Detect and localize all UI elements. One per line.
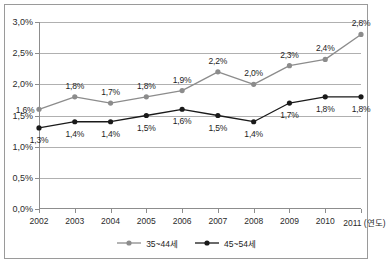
data-point: [36, 125, 41, 130]
data-point: [108, 100, 113, 105]
x-axis-label: 2003: [65, 216, 84, 226]
data-point: [215, 113, 220, 118]
x-axis-tick: [111, 209, 112, 213]
data-point: [180, 107, 185, 112]
y-axis-label: 3,0%: [12, 17, 33, 27]
x-axis-label: 2005: [137, 216, 156, 226]
x-axis-tick: [218, 209, 219, 213]
data-label: 1,4%: [244, 129, 263, 139]
data-point: [108, 119, 113, 124]
data-label: 2,2%: [209, 56, 228, 66]
data-point: [323, 94, 328, 99]
x-axis-label: 2006: [173, 216, 192, 226]
data-label: 1,7%: [101, 87, 120, 97]
y-axis-label: 2,5%: [12, 48, 33, 58]
x-axis-tick: [361, 209, 362, 213]
data-label: 1,8%: [65, 81, 84, 91]
data-label: 1,4%: [65, 129, 84, 139]
data-point: [72, 119, 77, 124]
x-axis-label: 2010: [316, 216, 335, 226]
data-point: [251, 82, 256, 87]
x-axis-label: 2009: [280, 216, 299, 226]
y-axis-label: 0,5%: [12, 173, 33, 183]
series-line-2: [39, 97, 361, 128]
x-axis-tick: [254, 209, 255, 213]
legend-entry-2[interactable]: 45~54세: [194, 237, 256, 249]
chart-plot-wrapper: 0,0%0,5%1,0%1,5%2,0%2,5%3,0% 20022003200…: [5, 5, 367, 258]
data-label: 1,6%: [16, 105, 35, 115]
legend-marker-icon: [116, 238, 142, 248]
chart-legend: 35~44세45~54세: [5, 237, 367, 249]
data-point: [323, 57, 328, 62]
x-axis-tick: [39, 209, 40, 213]
x-axis-label: 2007: [208, 216, 227, 226]
series-lines: [39, 22, 361, 209]
data-point: [36, 107, 41, 112]
data-point: [144, 94, 149, 99]
data-label: 1,8%: [137, 81, 156, 91]
x-axis-label: 2008: [244, 216, 263, 226]
x-axis-tick: [146, 209, 147, 213]
x-axis-tick: [182, 209, 183, 213]
data-label: 1,3%: [30, 135, 49, 145]
data-label: 1,7%: [280, 110, 299, 120]
y-axis-label: 2,0%: [12, 79, 33, 89]
data-label: 2,4%: [316, 43, 335, 53]
data-point: [251, 119, 256, 124]
legend-entry-1[interactable]: 35~44세: [116, 237, 178, 249]
data-point: [72, 94, 77, 99]
data-point: [358, 94, 363, 99]
data-point: [180, 88, 185, 93]
data-label: 1,8%: [316, 104, 335, 114]
data-label: 1,5%: [137, 123, 156, 133]
legend-marker-icon: [194, 238, 220, 248]
data-label: 1,5%: [209, 123, 228, 133]
data-point: [358, 32, 363, 37]
data-label: 1,8%: [352, 104, 371, 114]
chart-frame: 0,0%0,5%1,0%1,5%2,0%2,5%3,0% 20022003200…: [4, 4, 368, 259]
series-line-1: [39, 34, 361, 109]
x-axis-tick: [325, 209, 326, 213]
y-axis-label: 0,0%: [12, 204, 33, 214]
data-label: 1,9%: [173, 75, 192, 85]
data-point: [215, 69, 220, 74]
x-axis-tick: [75, 209, 76, 213]
data-label: 2,3%: [280, 50, 299, 60]
data-label: 2,0%: [244, 68, 263, 78]
data-label: 1,6%: [173, 116, 192, 126]
legend-label: 35~44세: [146, 237, 178, 249]
data-label: 2,8%: [352, 18, 371, 28]
x-axis-label: 2002: [30, 216, 49, 226]
data-point: [287, 100, 292, 105]
x-axis-tick: [289, 209, 290, 213]
data-label: 1,4%: [101, 129, 120, 139]
data-point: [144, 113, 149, 118]
x-axis-label: 2011 (연도): [343, 216, 385, 228]
plot-area: 0,0%0,5%1,0%1,5%2,0%2,5%3,0% 20022003200…: [39, 22, 361, 209]
legend-label: 45~54세: [224, 237, 256, 249]
x-axis-label: 2004: [101, 216, 120, 226]
data-point: [287, 63, 292, 68]
